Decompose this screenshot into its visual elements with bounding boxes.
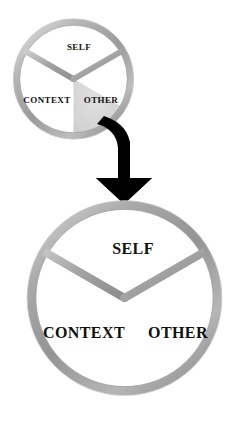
small-triad-circle[interactable]: SELF CONTEXT OTHER (13, 19, 133, 139)
small-sector-label-context: CONTEXT (23, 95, 70, 105)
small-circle-hub (70, 76, 76, 82)
small-sector-label-self: SELF (67, 42, 91, 52)
small-sector-label-other: OTHER (84, 95, 119, 105)
diagram-canvas: SELF CONTEXT OTHER SELF CONTEXT OTHER (0, 0, 251, 432)
large-sector-label-context: CONTEXT (43, 324, 125, 341)
arrow-head (96, 178, 152, 204)
large-circle-hub (120, 294, 128, 302)
large-sector-label-self: SELF (112, 240, 154, 257)
large-sector-label-other: OTHER (148, 324, 208, 341)
triad-diagram: SELF CONTEXT OTHER SELF CONTEXT OTHER (0, 0, 251, 432)
large-triad-circle[interactable]: SELF CONTEXT OTHER (27, 201, 222, 396)
